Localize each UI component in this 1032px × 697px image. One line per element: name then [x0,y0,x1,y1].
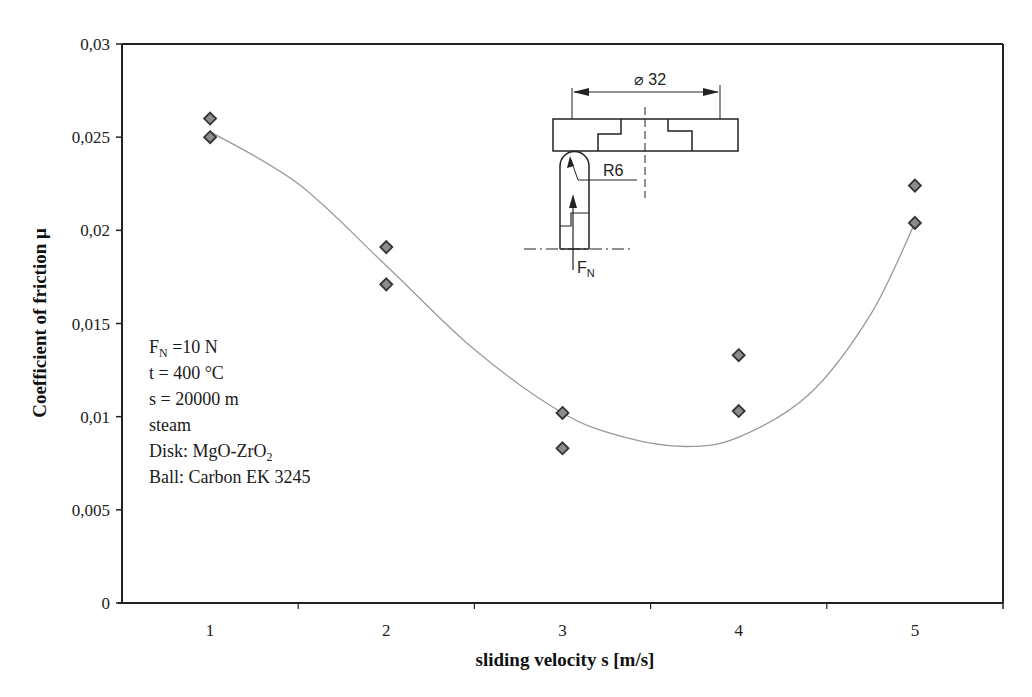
x-tick-label: 4 [734,621,743,640]
radius-arrow-head-icon [567,156,574,168]
annotation-text: s = 20000 m [149,389,239,409]
annotation-line: Disk: MgO-ZrO2 [149,441,273,464]
disk-right-step [668,119,692,151]
annotation-text: Disk: MgO-ZrO [149,441,267,461]
force-arrow-head-icon [569,194,577,208]
annotation-line: t = 400 °C [149,363,224,383]
dimension-arrow-right-icon [703,88,719,96]
annotation-text: steam [149,415,191,435]
annotation-subscript: N [159,346,168,360]
data-point-diamond [380,241,392,253]
annotation-text: =10 N [168,337,218,357]
test-conditions-annotation: FN =10 Nt = 400 °Cs = 20000 msteamDisk: … [149,337,310,487]
data-point-diamond [557,407,569,419]
trend-line [210,132,915,447]
diameter-label: ⌀ 32 [634,71,666,88]
trend-line-group [210,132,915,447]
y-tick-label: 0,005 [72,501,110,520]
data-point-diamond [733,405,745,417]
dimension-arrow-left-icon [573,88,589,96]
plot-frame [118,44,1003,603]
annotation-text: t = 400 °C [149,363,224,383]
x-tick-label: 3 [558,621,567,640]
x-tick-label: 5 [911,621,920,640]
annotation-line: steam [149,415,191,435]
x-tick-label: 2 [382,621,391,640]
disk-left-step [598,119,621,151]
annotation-text: Ball: Carbon EK 3245 [149,467,310,487]
radius-label: R6 [603,162,624,179]
y-axis-title: Coefficient of friction μ [29,228,50,418]
annotation-subscript: 2 [267,450,273,464]
x-ticks: 12345 [206,603,1003,640]
data-point-diamond [204,113,216,125]
data-point-diamond [204,131,216,143]
data-point-diamond [909,217,921,229]
data-point-diamond [557,442,569,454]
pin-inner-step [560,213,589,226]
data-points [204,113,921,455]
y-tick-label: 0,015 [72,315,110,334]
force-label-main: F [577,259,587,276]
data-point-diamond [733,349,745,361]
annotation-text: F [149,337,159,357]
y-tick-label: 0 [102,594,111,613]
y-tick-label: 0,01 [80,408,110,427]
friction-chart: 00,0050,010,0150,020,0250,03 12345 slidi… [0,0,1032,697]
data-point-diamond [380,278,392,290]
test-setup-schematic [524,85,738,270]
annotation-line: FN =10 N [149,337,218,360]
x-axis-title: sliding velocity s [m/s] [476,649,655,670]
x-tick-label: 1 [206,621,215,640]
y-tick-label: 0,03 [80,35,110,54]
y-tick-label: 0,025 [72,128,110,147]
annotation-line: s = 20000 m [149,389,239,409]
force-label: FN [577,259,595,279]
force-label-sub: N [587,267,595,279]
y-tick-label: 0,02 [80,221,110,240]
data-point-diamond [909,180,921,192]
annotation-line: Ball: Carbon EK 3245 [149,467,310,487]
y-ticks: 00,0050,010,0150,020,0250,03 [72,35,122,613]
